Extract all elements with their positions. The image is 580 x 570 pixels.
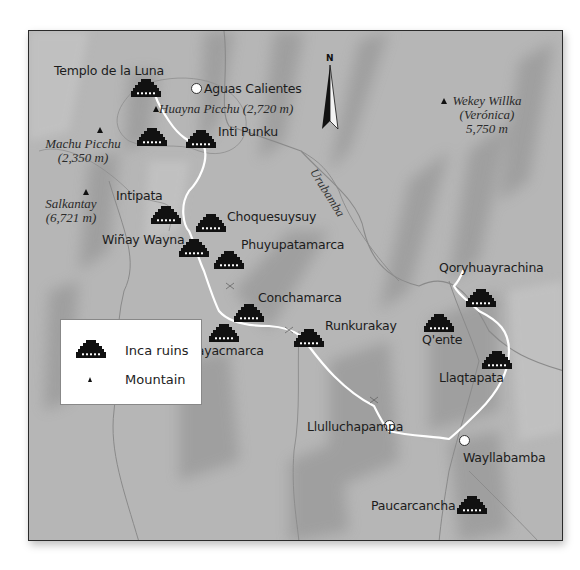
- label-phuyupatamarca: Phuyupatamarca: [241, 239, 344, 252]
- wekey-willka-name: Wekey Willka: [442, 94, 532, 108]
- ruin-icon-runkurakay: [294, 329, 324, 347]
- map: N Templo de la Luna Inti Punku I: [28, 30, 563, 541]
- mountain-icon-salkantay: [83, 189, 89, 195]
- map-legend: Inca ruins Mountain: [60, 319, 202, 405]
- north-label: N: [326, 53, 334, 63]
- inca-ruins-icon: [76, 340, 106, 358]
- ruin-icon-conchamarca: [234, 304, 264, 322]
- label-aguas-calientes: Aguas Calientes: [204, 83, 302, 96]
- legend-label-mountain: Mountain: [125, 372, 186, 387]
- label-runkurakay: Runkurakay: [325, 320, 397, 333]
- label-templo-de-la-luna: Templo de la Luna: [54, 65, 164, 78]
- machu-picchu-elevation: (2,350 m): [43, 151, 123, 165]
- label-inti-punku: Inti Punku: [218, 126, 278, 139]
- ruin-icon-inti-punku: [186, 130, 216, 148]
- wekey-willka-elevation: 5,750 m: [442, 122, 532, 136]
- label-wayllabamba: Wayllabamba: [463, 452, 545, 465]
- label-llaqtapata: Llaqtapata: [439, 372, 504, 385]
- ruin-icon-machu-picchu: [137, 128, 167, 146]
- label-salkantay: Salkantay (6,721 m): [31, 197, 111, 225]
- label-paucarcancha: Paucarcancha: [371, 500, 455, 513]
- ruin-icon-llaqtapata: [482, 351, 512, 369]
- label-choquesuysuy: Choquesuysuy: [227, 211, 316, 224]
- north-arrow-icon: [319, 65, 343, 131]
- label-winay-wayna: Wiñay Wayna: [102, 234, 185, 247]
- mountain-icon: [88, 377, 92, 382]
- machu-picchu-name: Machu Picchu: [43, 137, 123, 151]
- ruin-icon-templo-de-la-luna: [131, 79, 161, 97]
- north-arrow: N: [319, 53, 343, 131]
- label-qoryhuayrachina: Qoryhuayrachina: [439, 262, 544, 275]
- ruin-icon-paucarcancha: [457, 496, 487, 514]
- ruin-icon-sayacmarca: [209, 324, 239, 342]
- ruin-icon-qoryhuayrachina: [466, 289, 496, 307]
- ruin-icon-phuyupatamarca: [214, 251, 244, 269]
- label-qente: Q'ente: [422, 334, 462, 347]
- ruin-icon-qente: [424, 314, 454, 332]
- salkantay-elevation: (6,721 m): [31, 211, 111, 225]
- town-marker-aguas-calientes: [191, 83, 202, 94]
- wekey-willka-alt-name: (Verónica): [442, 108, 532, 122]
- mountain-icon-machu-picchu: [97, 127, 103, 133]
- label-machu-picchu: Machu Picchu (2,350 m): [43, 137, 123, 165]
- town-marker-wayllabamba: [459, 435, 470, 446]
- label-llulluchapampa: Llulluchapampa: [307, 421, 403, 434]
- label-wekey-willka: Wekey Willka (Verónica) 5,750 m: [442, 94, 532, 136]
- label-huayna-picchu: Huayna Picchu (2,720 m): [159, 102, 293, 116]
- legend-label-inca-ruins: Inca ruins: [125, 343, 189, 358]
- ruin-icon-intipata: [151, 206, 181, 224]
- ruin-icon-choquesuysuy: [196, 214, 226, 232]
- label-conchamarca: Conchamarca: [258, 292, 342, 305]
- label-intipata: Intipata: [116, 190, 163, 203]
- salkantay-name: Salkantay: [31, 197, 111, 211]
